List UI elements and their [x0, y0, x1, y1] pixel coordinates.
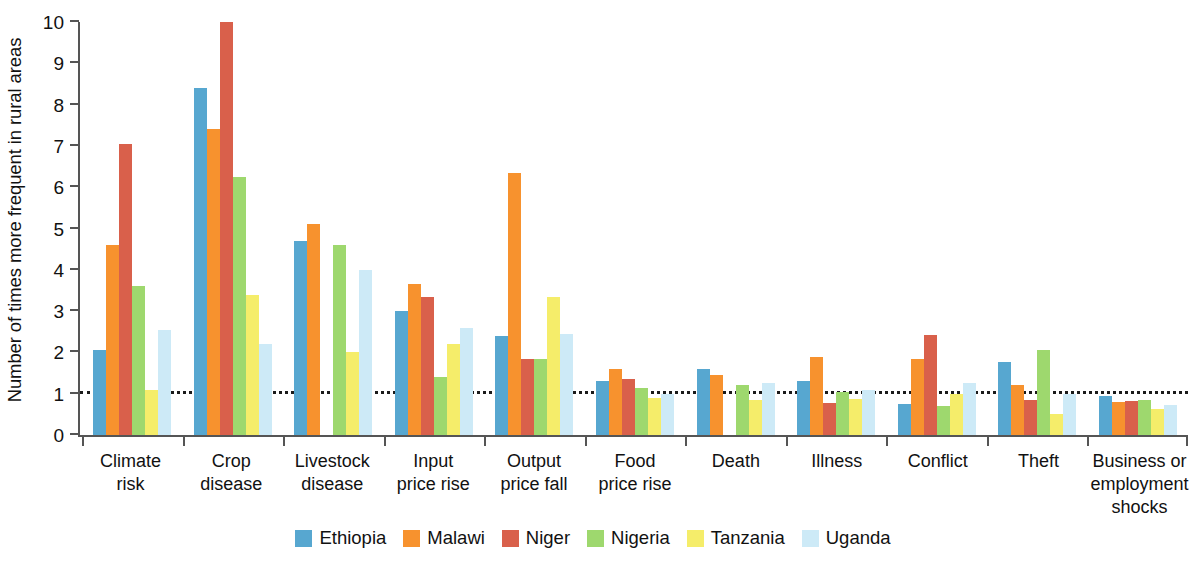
bar-tanzania[interactable]	[1151, 409, 1164, 435]
bar-group	[283, 22, 384, 435]
bar-nigeria[interactable]	[937, 406, 950, 435]
bar-nigeria[interactable]	[333, 245, 346, 435]
bar-ethiopia[interactable]	[294, 241, 307, 435]
bar-nigeria[interactable]	[736, 385, 749, 435]
bar-uganda[interactable]	[560, 334, 573, 435]
bar-uganda[interactable]	[762, 383, 775, 435]
bar-niger[interactable]	[1125, 401, 1138, 435]
bar-ethiopia[interactable]	[194, 88, 207, 435]
x-axis-tick	[585, 436, 587, 446]
x-axis-label-line: price fall	[484, 473, 585, 496]
legend-item-malawi[interactable]: Malawi	[403, 527, 485, 549]
bar-group	[585, 22, 686, 435]
legend-label: Malawi	[427, 527, 485, 549]
bar-tanzania[interactable]	[547, 297, 560, 435]
legend-item-tanzania[interactable]: Tanzania	[687, 527, 785, 549]
bar-tanzania[interactable]	[1050, 414, 1063, 435]
bar-ethiopia[interactable]	[898, 404, 911, 435]
bar-uganda[interactable]	[1063, 394, 1076, 435]
bar-malawi[interactable]	[810, 357, 823, 435]
x-axis-tick	[685, 436, 687, 446]
bar-uganda[interactable]	[259, 344, 272, 435]
legend-item-niger[interactable]: Niger	[502, 527, 570, 549]
y-axis-tick: 9	[70, 61, 79, 63]
bar-tanzania[interactable]	[145, 390, 158, 435]
bar-malawi[interactable]	[207, 129, 220, 435]
bar-niger[interactable]	[421, 297, 434, 435]
bar-group-bars	[384, 22, 485, 435]
bar-niger[interactable]	[622, 379, 635, 435]
bar-ethiopia[interactable]	[1099, 396, 1112, 435]
bar-nigeria[interactable]	[1037, 350, 1050, 435]
x-axis-label: Cropdisease	[181, 450, 282, 522]
bar-niger[interactable]	[119, 144, 132, 435]
bar-nigeria[interactable]	[1138, 400, 1151, 435]
y-axis-tick-label: 6	[53, 178, 64, 197]
x-axis-label-line: Climate	[80, 450, 181, 473]
bar-malawi[interactable]	[710, 375, 723, 435]
bar-uganda[interactable]	[963, 383, 976, 435]
bar-nigeria[interactable]	[132, 286, 145, 435]
bar-tanzania[interactable]	[246, 295, 259, 435]
legend-swatch	[502, 530, 519, 547]
legend-label: Tanzania	[711, 527, 785, 549]
legend-label: Ethiopia	[319, 527, 386, 549]
x-axis-tick	[82, 436, 84, 446]
bar-nigeria[interactable]	[534, 359, 547, 435]
legend-swatch	[587, 530, 604, 547]
x-axis-label-line: Death	[685, 450, 786, 473]
bar-group	[786, 22, 887, 435]
x-axis-label-line: Illness	[786, 450, 887, 473]
bar-uganda[interactable]	[1164, 405, 1177, 435]
bar-ethiopia[interactable]	[797, 381, 810, 435]
bar-niger[interactable]	[220, 22, 233, 435]
bar-malawi[interactable]	[1011, 385, 1024, 435]
x-axis-label-line: shocks	[1089, 496, 1190, 519]
bar-tanzania[interactable]	[950, 394, 963, 435]
bar-niger[interactable]	[521, 359, 534, 435]
bar-niger[interactable]	[823, 403, 836, 435]
bar-ethiopia[interactable]	[93, 350, 106, 435]
bar-malawi[interactable]	[106, 245, 119, 435]
bar-malawi[interactable]	[1112, 402, 1125, 435]
legend-item-uganda[interactable]: Uganda	[802, 527, 891, 549]
bar-ethiopia[interactable]	[697, 369, 710, 435]
x-axis-label-line: Livestock	[282, 450, 383, 473]
bar-nigeria[interactable]	[635, 388, 648, 435]
bar-niger[interactable]	[924, 335, 937, 435]
bar-uganda[interactable]	[158, 330, 171, 435]
bar-group-bars	[685, 22, 786, 435]
bar-malawi[interactable]	[408, 284, 421, 435]
bar-tanzania[interactable]	[447, 344, 460, 435]
legend-item-nigeria[interactable]: Nigeria	[587, 527, 670, 549]
legend-item-ethiopia[interactable]: Ethiopia	[295, 527, 386, 549]
bar-malawi[interactable]	[508, 173, 521, 435]
x-axis-label-line: Conflict	[887, 450, 988, 473]
bar-nigeria[interactable]	[233, 177, 246, 435]
bar-uganda[interactable]	[359, 270, 372, 435]
bar-nigeria[interactable]	[836, 392, 849, 435]
bar-ethiopia[interactable]	[495, 336, 508, 435]
bar-niger[interactable]	[1024, 400, 1037, 435]
y-axis-tick: 4	[70, 268, 79, 270]
x-axis-label-line: disease	[282, 473, 383, 496]
x-axis-label: Conflict	[887, 450, 988, 522]
bar-malawi[interactable]	[609, 369, 622, 435]
bar-malawi[interactable]	[307, 224, 320, 435]
bar-tanzania[interactable]	[346, 352, 359, 435]
bar-tanzania[interactable]	[849, 399, 862, 435]
bar-malawi[interactable]	[911, 359, 924, 435]
bar-ethiopia[interactable]	[596, 381, 609, 435]
bar-uganda[interactable]	[460, 328, 473, 435]
y-axis-tick: 8	[70, 103, 79, 105]
bar-nigeria[interactable]	[434, 377, 447, 435]
bar-uganda[interactable]	[862, 390, 875, 435]
bar-ethiopia[interactable]	[998, 362, 1011, 436]
bar-ethiopia[interactable]	[395, 311, 408, 435]
bar-tanzania[interactable]	[749, 400, 762, 435]
bar-tanzania[interactable]	[648, 398, 661, 435]
y-axis-tick: 0	[70, 433, 79, 435]
bar-uganda[interactable]	[661, 394, 674, 435]
x-axis-label-line: disease	[181, 473, 282, 496]
x-axis-label: Death	[685, 450, 786, 522]
